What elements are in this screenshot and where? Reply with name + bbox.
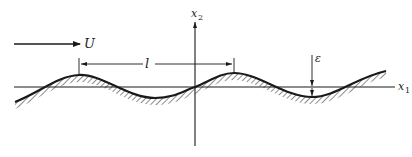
svg-text:x: x: [191, 7, 198, 20]
amplitude-label: ε: [315, 52, 321, 65]
x1-axis-label: x 1: [398, 80, 410, 95]
x2-axis-label: x 2: [191, 7, 203, 22]
flow-label: U: [84, 36, 96, 51]
svg-text:x: x: [398, 80, 405, 93]
wavelength-dimension: [79, 58, 234, 75]
wavelength-label: l: [145, 56, 149, 71]
svg-text:1: 1: [405, 86, 410, 95]
svg-text:2: 2: [198, 13, 203, 22]
wavy-wall-diagram: U l ε x 2 x 1: [0, 0, 412, 157]
